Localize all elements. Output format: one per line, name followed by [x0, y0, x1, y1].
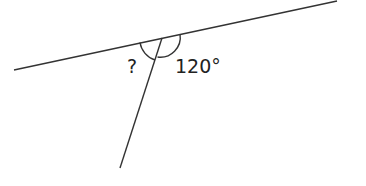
angle-diagram — [0, 0, 366, 186]
unknown-angle-arc — [140, 43, 155, 61]
unknown-angle-label: ? — [127, 57, 137, 76]
known-angle-label: 120° — [175, 57, 221, 76]
